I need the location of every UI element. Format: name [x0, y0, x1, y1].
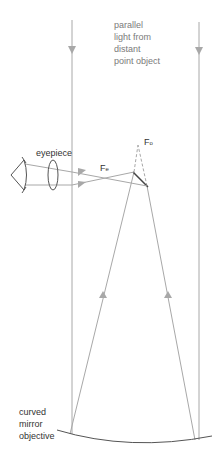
fo-label: Fo	[144, 136, 153, 149]
eye-icon	[11, 157, 27, 193]
label-line: mirror	[19, 418, 55, 430]
down-arrow-right-icon	[195, 47, 203, 55]
label-line: point object	[114, 55, 160, 67]
up-arrow-right-icon	[164, 291, 172, 298]
telescope-diagram	[0, 0, 214, 457]
fo-sub: o	[150, 140, 153, 146]
label-line: light from	[114, 31, 160, 43]
reflected-rays	[70, 172, 195, 440]
label-line: curved	[19, 406, 55, 418]
fe-sub: e	[106, 166, 109, 172]
label-line: parallel	[114, 19, 160, 31]
incoming-rays	[72, 20, 199, 440]
left-arrow-lower-icon	[78, 181, 86, 188]
fe-label: Fe	[100, 162, 109, 175]
label-line: distant	[114, 43, 160, 55]
objective-label: curved mirror objective	[19, 406, 55, 442]
curved-mirror	[57, 430, 212, 443]
up-arrow-left-icon	[99, 291, 107, 298]
eyepiece-rays	[25, 164, 147, 186]
label-line: objective	[19, 430, 55, 442]
down-arrow-left-icon	[68, 46, 76, 54]
eyepiece-label: eyepiece	[36, 147, 72, 159]
incoming-light-label: parallel light from distant point object	[114, 19, 160, 67]
